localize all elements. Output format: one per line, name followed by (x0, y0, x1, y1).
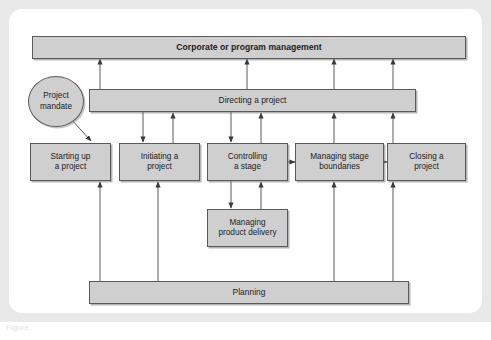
figure-root: Corporate or program managementProject m… (0, 0, 491, 340)
project-mandate-ellipse-label: Project mandate (40, 91, 72, 112)
figure-caption-text: Figure (6, 323, 29, 332)
planning-bar[interactable]: Planning (89, 281, 409, 304)
initiating-a-project-box[interactable]: Initiating a project (119, 143, 200, 181)
figure-caption-strip: Figure (0, 322, 491, 340)
managing-stage-boundaries-box-label: Managing stage boundaries (310, 152, 369, 173)
managing-stage-boundaries-box[interactable]: Managing stage boundaries (295, 143, 384, 181)
managing-product-delivery-box-label: Managing product delivery (218, 218, 276, 239)
corporate-or-program-management-bar-label: Corporate or program management (176, 42, 321, 53)
controlling-a-stage-box[interactable]: Controlling a stage (207, 143, 288, 181)
directing-a-project-bar-label: Directing a project (219, 95, 287, 106)
project-mandate-ellipse[interactable]: Project mandate (28, 76, 84, 127)
starting-up-a-project-box[interactable]: Starting up a project (30, 143, 111, 181)
directing-a-project-bar[interactable]: Directing a project (89, 89, 416, 112)
initiating-a-project-box-label: Initiating a project (141, 152, 179, 173)
controlling-a-stage-box-label: Controlling a stage (228, 152, 267, 173)
closing-a-project-box-label: Closing a project (409, 152, 443, 173)
corporate-or-program-management-bar[interactable]: Corporate or program management (32, 36, 466, 59)
managing-product-delivery-box[interactable]: Managing product delivery (207, 209, 288, 247)
starting-up-a-project-box-label: Starting up a project (51, 152, 91, 173)
planning-bar-label: Planning (233, 287, 266, 298)
closing-a-project-box[interactable]: Closing a project (387, 143, 466, 181)
